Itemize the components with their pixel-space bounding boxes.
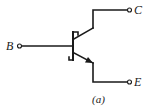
collector-diagonal <box>74 28 93 39</box>
figure-caption: (a) <box>92 93 105 106</box>
schottky-transistor-diagram: B C E (a) <box>0 0 149 111</box>
schottky-hook-bottom <box>69 56 73 60</box>
collector-lead <box>93 10 127 28</box>
base-terminal <box>18 44 22 48</box>
emitter-lead <box>93 63 127 82</box>
schottky-hook-top <box>73 32 78 36</box>
collector-terminal <box>128 8 132 12</box>
base-label: B <box>6 39 14 53</box>
emitter-terminal <box>128 80 132 84</box>
emitter-label: E <box>133 75 142 89</box>
collector-label: C <box>134 3 143 17</box>
